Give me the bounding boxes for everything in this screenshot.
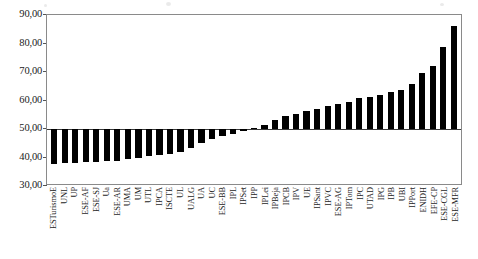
bar [230, 129, 236, 134]
bar [377, 95, 383, 129]
x-axis-tick-label: ESE-MFR [450, 187, 459, 222]
bar [261, 125, 267, 129]
bar-slot [449, 15, 460, 184]
bar-slot [196, 15, 207, 184]
bar [356, 98, 362, 129]
x-label-slot: UBI [397, 187, 408, 259]
bar [72, 129, 78, 163]
bar-slot [343, 15, 354, 184]
x-axis-tick-label: IPTom [345, 187, 354, 209]
bar [335, 104, 341, 129]
x-axis-tick-label: UC [207, 187, 216, 198]
x-label-slot: ESTurismoE [48, 187, 59, 259]
x-label-slot: IPSant [312, 187, 323, 259]
bar-slot [428, 15, 439, 184]
x-label-slot: IPV [291, 187, 302, 259]
scan-artifact [440, 3, 444, 6]
bar [240, 129, 246, 131]
x-label-slot: UP [69, 187, 80, 259]
x-label-slot: ENIDH [418, 187, 429, 259]
bar-slot [386, 15, 397, 184]
bar-slot [144, 15, 155, 184]
bar-slot [133, 15, 144, 184]
x-label-slot: UA [196, 187, 207, 259]
bar [325, 106, 331, 129]
x-axis-tick-label: IPSet [239, 187, 248, 205]
bar [209, 129, 215, 139]
x-label-slot: ESE-BB [217, 187, 228, 259]
bar [440, 47, 446, 129]
bar [188, 129, 194, 148]
x-label-slot: IPBeja [270, 187, 281, 259]
bar [104, 129, 110, 161]
x-label-slot: EFE-CP [428, 187, 439, 259]
x-label-slot: IPCA [154, 187, 165, 259]
bar-slot [375, 15, 386, 184]
x-label-slot: ISCTE [164, 187, 175, 259]
bar-slot [238, 15, 249, 184]
x-axis-tick-label: IPSant [313, 187, 322, 209]
bar-slot [270, 15, 281, 184]
x-label-slot: IPG [375, 187, 386, 259]
x-label-slot: UNL [59, 187, 70, 259]
bar-slot [49, 15, 60, 184]
x-axis-tick-label: Ua [102, 187, 111, 197]
scan-artifact [166, 2, 171, 6]
x-axis-tick-label: IPL [228, 187, 237, 199]
bar-slot [312, 15, 323, 184]
x-label-slot: ESE-SJ [90, 187, 101, 259]
bar-slot [91, 15, 102, 184]
x-axis-tick-label: IPC [355, 187, 364, 200]
bar-slot [249, 15, 260, 184]
bar [314, 109, 320, 129]
bar [167, 129, 173, 154]
x-axis-tick-label: UA [197, 187, 206, 199]
x-axis-tick-label: UP [70, 187, 79, 198]
bar-slot [112, 15, 123, 184]
bar-slot [259, 15, 270, 184]
bar-slot [81, 15, 92, 184]
y-axis-tick-label: 40,00 [0, 151, 42, 162]
x-label-slot: IPSet [238, 187, 249, 259]
x-axis-tick-label: IPCA [154, 187, 163, 206]
x-label-slot: ESE-AR [111, 187, 122, 259]
bar-slot [301, 15, 312, 184]
x-axis-tick-label: ESE-AF [80, 187, 89, 215]
x-axis-tick-label: IPBeja [271, 187, 280, 209]
bar-slot [417, 15, 428, 184]
x-label-slot: IPCB [280, 187, 291, 259]
bar-slot [123, 15, 134, 184]
x-axis-tick-label: IPPort [408, 187, 417, 208]
bar [219, 129, 225, 136]
bar [430, 66, 436, 129]
x-axis-tick-label: UE [302, 187, 311, 198]
bar [293, 114, 299, 129]
x-axis-tick-label: IPB [387, 187, 396, 200]
scan-artifact [44, 4, 47, 7]
x-axis-tick-label: IPP [249, 187, 258, 199]
x-label-slot: IPTom [344, 187, 355, 259]
bar [146, 129, 152, 156]
bar [83, 129, 89, 162]
bar-slot [207, 15, 218, 184]
y-axis-tick-label: 70,00 [0, 65, 42, 76]
x-axis-tick-labels: ESTurismoEUNLUPESE-AFESE-SJUaESE-ARUMAUM… [46, 187, 462, 259]
bar-slot [354, 15, 365, 184]
x-axis-tick-label: UMA [123, 187, 132, 206]
x-axis-tick-label: IPCB [281, 187, 290, 205]
x-axis-tick-label: IPLei [260, 187, 269, 205]
plot-area [46, 14, 462, 185]
x-axis-tick-label: IPG [376, 187, 385, 200]
x-label-slot: UALG [185, 187, 196, 259]
bar-slot [333, 15, 344, 184]
x-axis-tick-label: IPVC [323, 187, 332, 206]
x-label-slot: UC [206, 187, 217, 259]
bar-slot [60, 15, 71, 184]
x-axis-tick-label: ENIDH [418, 187, 427, 213]
y-axis-tick-label: 30,00 [0, 179, 42, 190]
x-label-slot: IPB [386, 187, 397, 259]
bar [198, 129, 204, 143]
x-label-slot: IPL [228, 187, 239, 259]
x-label-slot: Ua [101, 187, 112, 259]
bar-slot [228, 15, 239, 184]
